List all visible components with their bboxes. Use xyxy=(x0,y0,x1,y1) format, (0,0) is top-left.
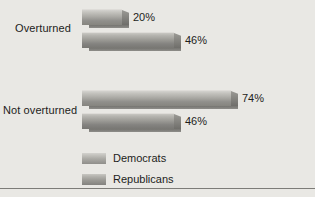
bar-face xyxy=(82,113,174,129)
bar-overturned-democrats xyxy=(82,9,122,25)
bar-cap xyxy=(174,33,181,48)
value-label-overturned-republicans: 46% xyxy=(185,34,207,46)
bar-face xyxy=(82,32,174,48)
value-label-overturned-democrats: 20% xyxy=(133,11,155,23)
bar-not-overturned-democrats xyxy=(82,90,231,106)
bar-chart: Overturned Not overturned 20% 46% 74% 46… xyxy=(0,0,315,197)
legend: Democrats Republicans xyxy=(82,150,174,192)
bar-cap xyxy=(231,91,238,106)
bar-face xyxy=(82,9,122,25)
legend-item-republicans: Republicans xyxy=(82,171,174,187)
value-label-not-overturned-democrats: 74% xyxy=(242,92,264,104)
legend-label-republicans: Republicans xyxy=(113,173,174,185)
value-label-not-overturned-republicans: 46% xyxy=(185,115,207,127)
legend-swatch-republicans xyxy=(82,174,106,185)
bar-overturned-republicans xyxy=(82,32,174,48)
legend-label-democrats: Democrats xyxy=(113,152,166,164)
bar-face xyxy=(82,90,231,106)
baseline-rule xyxy=(0,188,315,189)
category-label-not-overturned: Not overturned xyxy=(3,104,77,116)
bar-cap xyxy=(174,114,181,129)
legend-swatch-democrats xyxy=(82,153,106,164)
category-label-overturned: Overturned xyxy=(15,22,71,34)
bar-cap xyxy=(122,10,129,25)
legend-item-democrats: Democrats xyxy=(82,150,174,166)
bar-not-overturned-republicans xyxy=(82,113,174,129)
